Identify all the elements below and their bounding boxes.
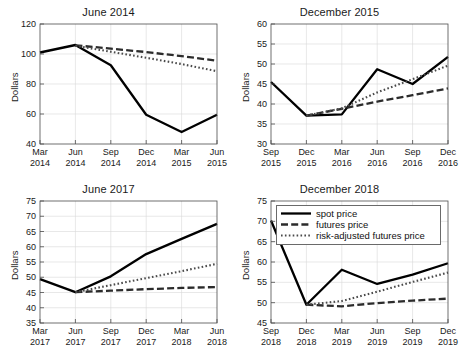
figure-canvas: June 2014Dollars406080100120Mar2014Jun20…	[0, 0, 463, 362]
x-tick-label: Dec2014	[136, 147, 156, 168]
x-tick-year: 2018	[261, 337, 281, 348]
y-tick-label: 55	[0, 257, 36, 267]
x-tick-label: Mar2018	[172, 326, 192, 347]
y-tick-label: 75	[0, 196, 36, 206]
panel-title: June 2014	[0, 6, 217, 18]
y-tick-label: 45	[0, 288, 36, 298]
panel-june-2017: June 2017Dollars354045505560657075Mar201…	[0, 183, 232, 362]
x-tick-month: Dec	[296, 326, 316, 337]
y-tick-label: 75	[231, 196, 267, 206]
x-tick-month: Mar	[172, 326, 192, 337]
plot-area	[40, 24, 217, 144]
panel-title: June 2017	[0, 183, 217, 195]
x-tick-year: 2016	[438, 158, 458, 169]
legend-swatch-futures	[281, 220, 311, 229]
y-tick-label: 65	[0, 227, 36, 237]
panel-june-2014: June 2014Dollars406080100120Mar2014Jun20…	[0, 6, 232, 181]
legend-swatch-risk_adjusted	[281, 231, 311, 240]
x-tick-month: Mar	[30, 326, 50, 337]
x-tick-month: Sep	[403, 326, 423, 337]
y-tick-label: 60	[0, 109, 36, 119]
x-tick-label: Dec2019	[438, 326, 458, 347]
y-tick-label: 65	[231, 237, 267, 247]
legend-item-futures[interactable]: futures price	[281, 219, 436, 230]
x-tick-year: 2017	[65, 337, 85, 348]
x-tick-year: 2015	[296, 158, 316, 169]
x-tick-label: Jun2019	[367, 326, 387, 347]
panel-december-2015: December 2015Dollars30354045505560Sep201…	[231, 6, 463, 181]
plot-area	[40, 201, 217, 323]
y-tick-label: 50	[0, 272, 36, 282]
x-tick-month: Jun	[207, 147, 227, 158]
x-tick-label: Sep2018	[261, 326, 281, 347]
series-line-spot	[40, 224, 217, 292]
y-tick-label: 70	[0, 211, 36, 221]
x-tick-label: Jun2014	[65, 147, 85, 168]
legend-item-spot[interactable]: spot price	[281, 208, 436, 219]
panel-december-2018: December 2018Dollars45505560657075Sep201…	[231, 183, 463, 362]
x-tick-label: Sep2019	[403, 326, 423, 347]
y-tick-label: 120	[0, 19, 36, 29]
x-tick-month: Mar	[332, 326, 352, 337]
x-tick-year: 2015	[172, 158, 192, 169]
x-tick-year: 2017	[30, 337, 50, 348]
x-tick-label: Sep2015	[261, 147, 281, 168]
x-tick-year: 2014	[65, 158, 85, 169]
x-tick-month: Sep	[101, 147, 121, 158]
y-tick-label: 55	[231, 277, 267, 287]
x-tick-label: Sep2017	[101, 326, 121, 347]
panel-title: December 2015	[231, 6, 448, 18]
x-tick-year: 2019	[438, 337, 458, 348]
y-tick-label: 50	[231, 59, 267, 69]
x-tick-month: Mar	[332, 147, 352, 158]
legend-label: risk-adjusted futures price	[316, 230, 425, 241]
x-tick-year: 2016	[332, 158, 352, 169]
y-tick-label: 40	[231, 99, 267, 109]
y-tick-label: 60	[0, 242, 36, 252]
legend-item-risk_adjusted[interactable]: risk-adjusted futures price	[281, 230, 436, 241]
plot-area	[271, 24, 448, 144]
x-tick-label: Jun2017	[65, 326, 85, 347]
x-tick-year: 2018	[296, 337, 316, 348]
x-tick-month: Sep	[101, 326, 121, 337]
legend: spot pricefutures pricerisk-adjusted fut…	[276, 205, 441, 245]
legend-label: futures price	[316, 219, 368, 230]
y-tick-label: 70	[231, 216, 267, 226]
x-tick-month: Mar	[30, 147, 50, 158]
x-tick-month: Dec	[136, 326, 156, 337]
x-tick-month: Dec	[296, 147, 316, 158]
y-tick-label: 45	[231, 79, 267, 89]
x-tick-label: Jun2016	[367, 147, 387, 168]
x-tick-month: Sep	[261, 147, 281, 158]
y-tick-label: 60	[231, 257, 267, 267]
x-tick-year: 2019	[403, 337, 423, 348]
series-line-spot	[271, 57, 448, 116]
x-tick-month: Sep	[403, 147, 423, 158]
x-tick-month: Jun	[65, 147, 85, 158]
x-tick-label: Jun2015	[207, 147, 227, 168]
y-tick-label: 80	[0, 79, 36, 89]
x-tick-label: Dec2018	[296, 326, 316, 347]
x-tick-year: 2016	[403, 158, 423, 169]
x-tick-label: Dec2015	[296, 147, 316, 168]
x-tick-year: 2014	[101, 158, 121, 169]
y-tick-label: 40	[0, 303, 36, 313]
legend-label: spot price	[316, 208, 357, 219]
y-tick-label: 60	[231, 19, 267, 29]
x-tick-month: Mar	[172, 147, 192, 158]
x-tick-label: Jun2018	[207, 326, 227, 347]
x-tick-label: Sep2016	[403, 147, 423, 168]
x-tick-label: Mar2017	[30, 326, 50, 347]
y-tick-label: 55	[231, 39, 267, 49]
x-tick-month: Jun	[367, 326, 387, 337]
x-tick-month: Jun	[65, 326, 85, 337]
x-tick-month: Sep	[261, 326, 281, 337]
figure-suptitle	[0, 0, 463, 4]
panel-title: December 2018	[231, 183, 448, 195]
x-tick-year: 2018	[172, 337, 192, 348]
x-tick-label: Dec2017	[136, 326, 156, 347]
x-tick-month: Dec	[136, 147, 156, 158]
x-tick-month: Dec	[438, 326, 458, 337]
x-tick-label: Sep2014	[101, 147, 121, 168]
x-tick-year: 2017	[101, 337, 121, 348]
